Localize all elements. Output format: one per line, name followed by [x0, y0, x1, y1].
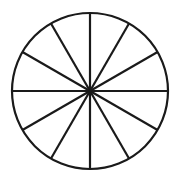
zodiac-wheel-figure: ♈: [0, 0, 178, 183]
wheel-svg: ♈: [0, 0, 178, 183]
aries-glyph-icon: ♈: [30, 93, 45, 113]
